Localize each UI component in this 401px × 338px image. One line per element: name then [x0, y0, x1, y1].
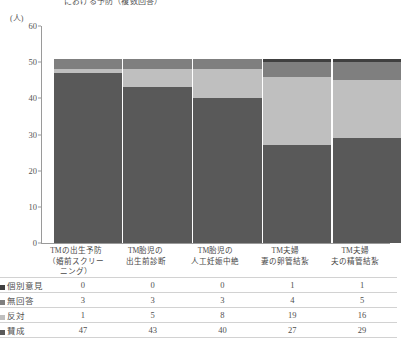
table-cell-value: 1: [48, 308, 118, 323]
bar-segment: [123, 69, 191, 87]
legend-swatch-icon: [0, 300, 5, 305]
table-cell-value: 5: [118, 308, 188, 323]
legend-swatch-icon: [0, 285, 5, 290]
legend-label: 賛成: [7, 326, 25, 336]
legend-label: 個別意見: [7, 281, 43, 291]
bar-segment: [123, 87, 191, 243]
plot-area: 0102030405060: [41, 26, 390, 244]
x-axis-category-label: TM夫婦夫の精管結紮: [319, 246, 391, 267]
bar-segment: [123, 59, 191, 70]
table-cell-value: 0: [118, 278, 188, 293]
stacked-bar: [123, 59, 191, 243]
bar-segment: [333, 138, 401, 243]
x-axis-category-label: TM胎児の出生前診断: [110, 246, 182, 267]
table-row: 無回答33345: [0, 293, 397, 308]
x-axis-labels: TMの出生予防（婚前スクリーニング）TM胎児の出生前診断TM胎児の人工妊娠中絶T…: [41, 246, 390, 280]
bar-segment: [263, 77, 331, 146]
table-cell-value: 43: [118, 323, 188, 338]
y-axis-unit-label: (人): [10, 12, 23, 23]
y-tick-label: 20: [29, 166, 38, 176]
legend-swatch-icon: [0, 330, 5, 335]
legend-swatch-icon: [0, 315, 5, 320]
table-cell-value: 4: [257, 293, 327, 308]
x-axis-category-label: TM夫婦妻の卵管結紮: [250, 246, 322, 267]
table-cell-value: 3: [48, 293, 118, 308]
y-tick-label: 30: [29, 130, 38, 140]
legend-entry: 賛成: [0, 323, 48, 338]
y-tick-label: 50: [29, 57, 38, 67]
chart-title: における予防（複数回答）: [64, 0, 162, 6]
bar-segment: [263, 62, 331, 76]
table-cell-value: 29: [327, 323, 397, 338]
bar-segment: [333, 80, 401, 138]
stacked-bar: [54, 59, 122, 243]
table-cell-value: 0: [48, 278, 118, 293]
bar-segment: [333, 62, 401, 80]
bar-segment: [193, 98, 261, 243]
table-cell-value: 5: [327, 293, 397, 308]
y-tick-label: 40: [29, 93, 38, 103]
y-tick-label: 60: [29, 21, 38, 31]
table-cell-value: 0: [188, 278, 258, 293]
legend-label: 無回答: [7, 296, 34, 306]
data-table: 個別意見00011無回答33345反対1581916賛成4743402729: [0, 277, 397, 338]
table-cell-value: 8: [188, 308, 258, 323]
y-tick-label: 0: [33, 238, 37, 248]
table-cell-value: 3: [188, 293, 258, 308]
legend-entry: 個別意見: [0, 278, 48, 293]
bar-segment: [193, 69, 261, 98]
table-cell-value: 1: [257, 278, 327, 293]
bar-group: [41, 26, 390, 243]
x-axis-category-label: TMの出生予防（婚前スクリーニング）: [40, 246, 112, 278]
table-cell-value: 40: [188, 323, 258, 338]
bar-segment: [193, 59, 261, 70]
table-cell-value: 19: [257, 308, 327, 323]
legend-entry: 反対: [0, 308, 48, 323]
bar-segment: [263, 145, 331, 243]
stacked-bar: [263, 59, 331, 243]
table-row: 賛成4743402729: [0, 323, 397, 338]
stacked-bar: [333, 59, 401, 243]
table-cell-value: 3: [118, 293, 188, 308]
stacked-bar: [193, 59, 261, 243]
x-axis-line: [41, 243, 390, 244]
table-cell-value: 47: [48, 323, 118, 338]
legend-entry: 無回答: [0, 293, 48, 308]
y-tick-label: 10: [29, 202, 38, 212]
table-row: 反対1581916: [0, 308, 397, 323]
bar-segment: [54, 73, 122, 243]
table-row: 個別意見00011: [0, 278, 397, 293]
table-cell-value: 16: [327, 308, 397, 323]
x-axis-category-label: TM胎児の人工妊娠中絶: [180, 246, 252, 267]
table-cell-value: 1: [327, 278, 397, 293]
legend-label: 反対: [7, 311, 25, 321]
bar-segment: [54, 59, 122, 70]
table-cell-value: 27: [257, 323, 327, 338]
